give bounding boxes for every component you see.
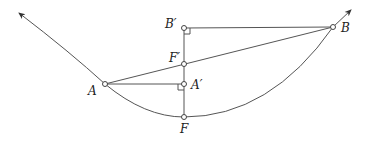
parabola-curve (19, 13, 105, 84)
label-b-prime: B′ (164, 17, 177, 31)
point-b (331, 25, 336, 30)
label-f-prime: F′ (168, 51, 180, 65)
label-b: B (340, 21, 350, 35)
chord-a-b (105, 27, 333, 84)
point-f-prime (182, 62, 187, 67)
parabola-curve-bottom (105, 27, 333, 117)
point-a-prime (182, 82, 187, 87)
segment-bprime-b (184, 27, 333, 28)
point-a (103, 82, 108, 87)
label-f: F (179, 122, 189, 136)
label-a: A (87, 84, 97, 98)
parabola-diagram: A B B′ F′ A′ F (0, 0, 368, 142)
point-b-prime (182, 26, 187, 31)
point-f (182, 115, 187, 120)
label-a-prime: A′ (190, 78, 203, 92)
